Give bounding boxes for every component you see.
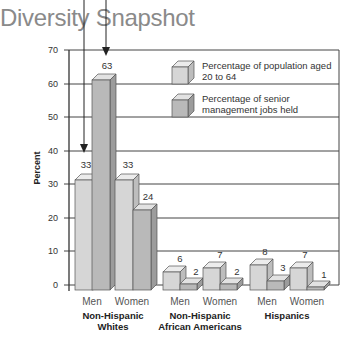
- legend-swatch-senior: [172, 94, 194, 117]
- legend-item-population: Percentage of population aged 20 to 64: [202, 60, 332, 82]
- bar-nhw-men-senior: [92, 74, 116, 290]
- arrow-down-icon: [80, 144, 88, 153]
- y-tick: 70: [48, 45, 58, 55]
- value-label: 63: [102, 60, 113, 71]
- x-sub-label: Men: [257, 296, 276, 307]
- arrow-down-icon: [102, 47, 110, 56]
- y-tick: 10: [48, 246, 58, 256]
- x-sub-label: Women: [115, 296, 149, 307]
- group-label: Non-Hispanic: [169, 310, 230, 321]
- value-label: 1: [321, 269, 326, 280]
- x-sub-label: Women: [290, 296, 324, 307]
- y-tick: 40: [48, 146, 58, 156]
- value-label: 6: [177, 253, 182, 264]
- value-label: 33: [123, 159, 134, 170]
- x-sub-label: Men: [82, 296, 101, 307]
- group-label: Non-Hispanic: [82, 310, 143, 321]
- y-tick: 0: [53, 280, 58, 290]
- y-tick: 50: [48, 112, 58, 122]
- value-label: 7: [217, 249, 222, 260]
- bar-hisp-men-senior: [267, 275, 290, 290]
- value-label: 7: [302, 249, 307, 260]
- group-label: Whites: [97, 321, 128, 332]
- x-sub-label: Men: [170, 296, 189, 307]
- group-label: Hispanics: [265, 310, 310, 321]
- group-label: African Americans: [158, 321, 242, 332]
- value-label: 33: [81, 159, 92, 170]
- bar-chart: 0 10 20 30 40 50 60 70 Percent: [0, 0, 346, 340]
- legend-swatch-population: [172, 61, 194, 84]
- value-label: 8: [262, 246, 267, 257]
- value-label: 24: [143, 191, 154, 202]
- x-sub-label: Women: [203, 296, 237, 307]
- legend-item-senior: Percentage of senior management jobs hel…: [202, 93, 332, 115]
- y-tick: 30: [48, 179, 58, 189]
- value-label: 2: [193, 266, 198, 277]
- y-axis-label: Percent: [32, 151, 42, 184]
- y-tick: 20: [48, 213, 58, 223]
- value-label: 3: [280, 262, 285, 273]
- value-label: 2: [234, 266, 239, 277]
- bar-nhw-women-senior: [133, 204, 157, 290]
- y-tick: 60: [48, 79, 58, 89]
